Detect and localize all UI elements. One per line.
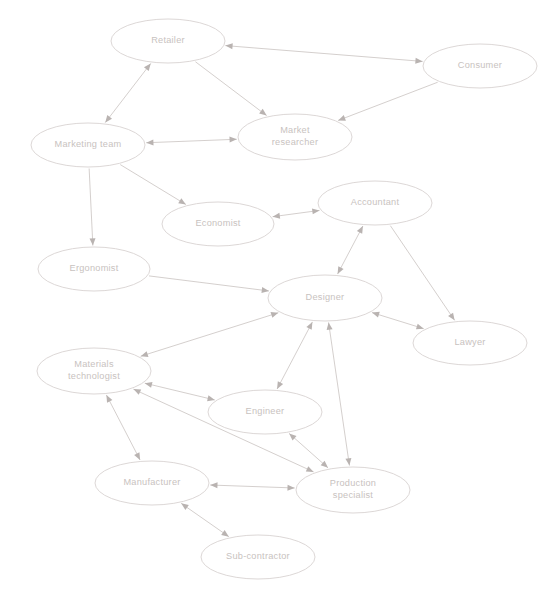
edge-designer-to-lawyer <box>372 312 424 330</box>
edge-line <box>141 313 279 356</box>
arrow-head <box>90 238 96 245</box>
edge-line <box>372 313 424 329</box>
node-economist[interactable]: Economist <box>162 202 274 246</box>
node-designer[interactable]: Designer <box>268 275 382 321</box>
edge-designer-to-materials-technologist <box>141 312 279 357</box>
node-label-sub-contractor: Sub-contractor <box>226 551 290 561</box>
node-label-consumer: Consumer <box>458 60 502 70</box>
node-engineer[interactable]: Engineer <box>208 390 322 434</box>
edge-retailer-to-marketing-team <box>105 63 150 122</box>
edge-retailer-to-consumer <box>225 43 422 64</box>
edge-line <box>390 226 454 321</box>
edge-line <box>329 322 350 465</box>
diagram-canvas: RetailerConsumerMarketresearcherMarketin… <box>0 0 550 605</box>
arrow-head <box>287 485 294 491</box>
arrow-head <box>338 115 346 121</box>
edge-line <box>145 383 215 400</box>
arrow-head <box>178 198 186 204</box>
edge-accountant-to-designer <box>338 226 363 274</box>
edge-manufacturer-to-production-specialist <box>210 482 294 490</box>
node-label-engineer: Engineer <box>246 406 285 416</box>
node-marketing-team[interactable]: Marketing team <box>31 123 145 167</box>
node-label-lawyer: Lawyer <box>454 337 485 347</box>
node-label-economist: Economist <box>195 218 240 228</box>
edge-ergonomist-to-designer <box>149 276 269 293</box>
arrow-head <box>448 313 455 321</box>
arrow-head <box>416 324 424 330</box>
arrow-head <box>144 63 151 71</box>
node-label-materials-technologist: Materialstechnologist <box>68 360 120 382</box>
node-label-manufacturer: Manufacturer <box>123 477 180 487</box>
edge-consumer-to-market-researcher <box>338 82 438 120</box>
node-label-accountant: Accountant <box>351 197 400 207</box>
edge-line <box>289 433 328 467</box>
arrow-head <box>312 208 320 214</box>
node-label-retailer: Retailer <box>151 35 185 45</box>
node-production-specialist[interactable]: Productionspecialist <box>296 467 410 513</box>
node-manufacturer[interactable]: Manufacturer <box>95 461 209 505</box>
edge-line <box>149 276 269 291</box>
edge-materials-technologist-to-manufacturer <box>106 395 140 460</box>
edge-materials-technologist-to-engineer <box>145 382 215 401</box>
arrow-head <box>181 503 189 510</box>
arrow-head <box>271 312 279 318</box>
edge-manufacturer-to-sub-contractor <box>181 503 229 536</box>
node-sub-contractor[interactable]: Sub-contractor <box>201 535 315 579</box>
stakeholder-network-graph: RetailerConsumerMarketresearcherMarketin… <box>0 0 550 605</box>
edge-line <box>225 46 422 62</box>
arrow-head <box>415 58 422 64</box>
arrow-head <box>145 382 153 388</box>
node-label-marketing-team: Marketing team <box>55 139 122 149</box>
edge-line <box>277 322 312 389</box>
arrow-head <box>259 109 267 116</box>
edge-accountant-to-lawyer <box>390 226 454 321</box>
arrow-head <box>273 213 281 219</box>
edge-designer-to-production-specialist <box>327 322 352 465</box>
edge-designer-to-engineer <box>277 322 312 389</box>
node-layer: RetailerConsumerMarketresearcherMarketin… <box>31 19 537 579</box>
edge-marketing-team-to-economist <box>120 165 186 205</box>
edge-line <box>106 395 140 460</box>
arrow-head <box>207 395 215 401</box>
arrow-head <box>141 351 149 357</box>
edge-line <box>146 139 237 143</box>
edge-line <box>181 503 229 536</box>
node-label-production-specialist: Productionspecialist <box>330 479 376 501</box>
arrow-head <box>210 482 217 488</box>
edge-line <box>210 485 294 488</box>
arrow-head <box>345 458 351 466</box>
node-materials-technologist[interactable]: Materialstechnologist <box>37 348 151 394</box>
arrow-head <box>146 139 153 145</box>
arrow-head <box>105 115 112 123</box>
edge-marketing-team-to-ergonomist <box>89 169 95 246</box>
edge-line <box>105 63 150 122</box>
node-accountant[interactable]: Accountant <box>318 181 432 225</box>
arrow-head <box>225 43 232 49</box>
edge-line <box>89 169 93 246</box>
node-lawyer[interactable]: Lawyer <box>413 321 527 365</box>
arrow-head <box>372 312 380 318</box>
edge-economist-to-accountant <box>273 208 320 218</box>
edge-line <box>195 62 266 116</box>
edge-line <box>120 165 186 205</box>
node-label-ergonomist: Ergonomist <box>70 263 119 273</box>
node-market-researcher[interactable]: Marketresearcher <box>238 114 352 160</box>
arrow-head <box>221 530 229 537</box>
arrow-head <box>229 137 236 143</box>
node-label-designer: Designer <box>306 292 345 302</box>
node-consumer[interactable]: Consumer <box>423 44 537 88</box>
arrow-head <box>261 287 269 293</box>
edge-line <box>338 82 438 120</box>
edge-marketing-team-to-market-researcher <box>146 137 237 146</box>
arrow-head <box>327 322 333 330</box>
node-retailer[interactable]: Retailer <box>111 19 225 63</box>
node-ergonomist[interactable]: Ergonomist <box>38 247 150 291</box>
edge-engineer-to-production-specialist <box>289 433 328 467</box>
edge-line <box>338 226 363 274</box>
edge-retailer-to-market-researcher <box>195 62 266 116</box>
